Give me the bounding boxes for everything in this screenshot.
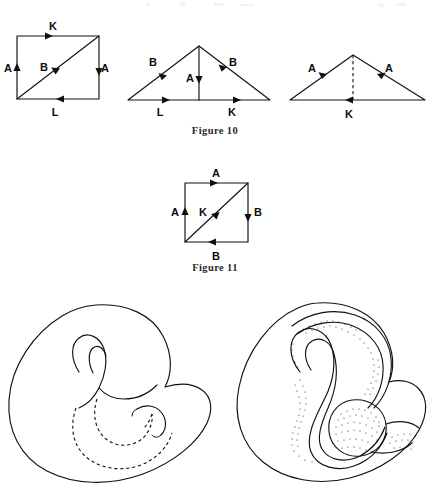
top-edge-arrowhead — [45, 32, 53, 39]
label-left-A: A — [4, 62, 12, 74]
left-edge-arrowhead — [13, 63, 20, 71]
inner-bulb-contour — [329, 400, 386, 456]
label-diagonal-B: B — [40, 61, 48, 73]
inner-hook-tip — [152, 435, 161, 437]
base-left-arrowhead — [162, 96, 170, 103]
figure-11-square: A A B B K — [171, 167, 262, 262]
hidden-tube-outer-dashed — [73, 408, 172, 469]
median-arrowhead — [195, 76, 202, 84]
label-bottom-L: L — [52, 106, 59, 118]
label-right-slope-A: A — [385, 62, 393, 74]
right-edge-arrowhead — [244, 214, 251, 222]
figure-10-square: K A A L B — [4, 20, 109, 118]
label-left-slope-B: B — [149, 56, 157, 68]
top-edge-arrowhead — [210, 179, 218, 186]
klein-bottle-shaded — [237, 303, 426, 482]
scan-noise — [146, 2, 405, 7]
neck-entry-contour — [99, 385, 157, 399]
neck-loop-left-contour — [73, 335, 106, 408]
label-right-A: A — [101, 62, 109, 74]
label-top-K: K — [49, 20, 57, 32]
label-right-B: B — [254, 206, 262, 218]
label-bottom-B: B — [212, 250, 220, 262]
figure-canvas: K A A L B B B A L K — [0, 0, 431, 491]
bottom-edge-arrowhead — [208, 238, 216, 245]
base-arrowhead — [345, 96, 353, 103]
label-base-right-K: K — [228, 106, 236, 118]
bottom-edge-arrowhead — [56, 95, 64, 102]
inner-hook-start — [132, 409, 137, 416]
base-right-arrowhead — [233, 96, 241, 103]
figure-10-triangle-middle: B B A L K — [128, 46, 270, 118]
lower-right-fold-upper — [386, 422, 419, 428]
label-diagonal-K: K — [199, 206, 207, 218]
label-left-A: A — [171, 206, 179, 218]
label-right-slope-B: B — [229, 56, 237, 68]
outer-body-contour — [237, 303, 426, 482]
label-base-K: K — [345, 108, 353, 120]
figure-11-caption: Figure 11 — [192, 262, 238, 273]
label-base-left-L: L — [157, 106, 164, 118]
figure-10-triangle-right: A A K — [290, 55, 425, 120]
figure-page: K A A L B B B A L K — [0, 0, 431, 491]
label-median-A: A — [186, 72, 194, 84]
outer-body-contour — [9, 305, 211, 483]
diagonal-line — [17, 36, 99, 99]
inner-hook-contour — [137, 406, 166, 435]
diagonal-line — [185, 183, 248, 242]
label-left-slope-A: A — [308, 62, 316, 74]
label-top-A: A — [212, 167, 220, 179]
upper-band-outer — [292, 312, 391, 408]
upper-band-inner — [297, 322, 383, 408]
s-tube-inner-contour — [305, 339, 385, 460]
neck-loop-inner-contour — [89, 346, 106, 373]
klein-bottle-outline — [9, 305, 211, 483]
left-edge-arrowhead — [181, 207, 188, 215]
figure-10-caption: Figure 10 — [192, 125, 238, 136]
